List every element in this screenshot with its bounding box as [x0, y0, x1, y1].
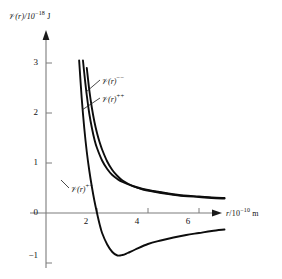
y-axis-label-rest: (r)/10	[15, 12, 35, 21]
curve-group	[79, 61, 224, 256]
x-axis-label-unit: m	[252, 209, 258, 218]
curve-v-r-	[87, 68, 225, 199]
y-tick-label-3: 3	[22, 57, 38, 67]
y-axis-label-unit: J	[47, 12, 50, 21]
x-axis-label-exponent: −10	[240, 207, 250, 213]
y-tick-label-0: 0	[22, 207, 38, 217]
y-axis-label: 𝒱(r)/10−18 J	[8, 10, 51, 22]
y-axis-label-exponent: −18	[35, 10, 45, 16]
axis-group	[30, 30, 222, 268]
x-tick-label-2: 2	[80, 216, 92, 226]
curve-label-plus-plus-superscript: ++	[116, 92, 124, 99]
chart-canvas	[0, 0, 282, 279]
potential-energy-chart: 𝒱(r)/10−18 J r/10−10 m 3 2 1 0 −1 2 4 6 …	[0, 0, 282, 279]
x-axis-arrowhead	[212, 210, 222, 217]
curve-label-plus-minus-variable: 𝒱	[70, 185, 77, 194]
x-tick-label-4: 4	[131, 216, 143, 226]
x-axis-label-rest: /10	[229, 209, 240, 218]
y-tick-label-1: 1	[22, 157, 38, 167]
curve-label-minus-minus: 𝒱(r)−−	[101, 74, 125, 87]
y-axis-arrowhead	[43, 30, 50, 40]
annotation-leaders	[61, 80, 100, 188]
curve-label-plus-plus-variable: 𝒱	[101, 95, 108, 104]
y-tick-label-minus-1: −1	[18, 250, 38, 260]
curve-label-plus-plus: 𝒱(r)++	[101, 92, 125, 105]
curve-label-plus-minus-superscript: +−	[85, 182, 93, 189]
curve-label-minus-minus-variable: 𝒱	[101, 77, 108, 86]
curve-label-minus-minus-superscript: −−	[116, 74, 124, 81]
x-axis-label: r/10−10 m	[226, 207, 259, 218]
x-tick-label-6: 6	[182, 216, 194, 226]
leader-line-plus-minus	[61, 180, 69, 188]
curve-label-plus-minus: 𝒱(r)+−	[70, 182, 94, 195]
y-tick-label-2: 2	[22, 107, 38, 117]
